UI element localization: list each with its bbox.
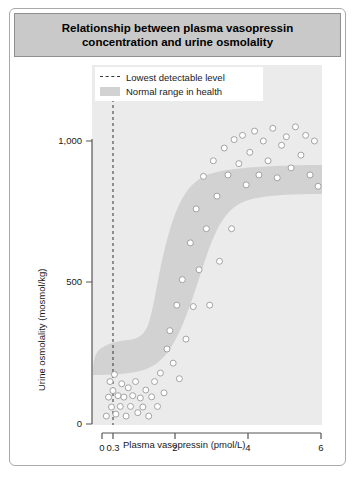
data-point <box>127 403 133 409</box>
data-point <box>115 393 121 399</box>
data-point <box>179 277 185 283</box>
data-point <box>164 346 170 352</box>
legend-item-normal-range: Normal range in health <box>100 84 258 98</box>
data-point <box>140 404 146 410</box>
data-point <box>137 395 143 401</box>
data-point <box>243 182 249 188</box>
x-tick-label-2: 2 <box>165 442 185 453</box>
data-point <box>292 124 298 130</box>
page-title: Relationship between plasma vasopressin … <box>15 21 340 49</box>
y-tick-label-500: 500 <box>40 276 82 287</box>
data-point <box>283 134 289 140</box>
data-point <box>247 149 253 155</box>
y-tick-label-1000: 1,000 <box>40 135 82 146</box>
data-point <box>200 173 206 179</box>
data-point <box>240 132 246 138</box>
data-point <box>121 394 127 400</box>
data-point <box>274 175 280 181</box>
data-point <box>307 172 313 178</box>
data-point <box>196 267 202 273</box>
data-point <box>149 394 155 400</box>
data-point <box>119 381 125 387</box>
data-point <box>221 145 227 151</box>
data-point <box>260 138 266 144</box>
data-point <box>130 393 136 399</box>
data-point <box>110 388 116 394</box>
chart-title-bar: Relationship between plasma vasopressin … <box>14 13 341 57</box>
data-point <box>125 385 131 391</box>
legend-label-lowest-detectable: Lowest detectable level <box>126 72 225 83</box>
data-point <box>152 379 158 385</box>
data-point <box>270 125 276 131</box>
data-point <box>229 226 235 232</box>
data-point <box>187 240 193 246</box>
data-point <box>146 413 152 419</box>
data-point <box>315 183 321 189</box>
data-point <box>117 403 123 409</box>
data-point <box>225 172 231 178</box>
data-point <box>303 132 309 138</box>
legend-label-normal-range: Normal range in health <box>126 86 222 97</box>
data-point <box>298 152 304 158</box>
data-point <box>111 371 117 377</box>
data-point <box>256 172 262 178</box>
data-point <box>203 226 209 232</box>
chart-legend: Lowest detectable level Normal range in … <box>95 67 263 101</box>
data-point <box>123 413 129 419</box>
data-point <box>288 165 294 171</box>
data-point <box>113 411 119 417</box>
data-point <box>170 360 176 366</box>
data-point <box>103 413 109 419</box>
data-point <box>106 394 112 400</box>
data-point <box>190 304 196 310</box>
dashed-line-icon <box>100 76 120 78</box>
data-point <box>231 137 237 143</box>
data-point <box>167 328 173 334</box>
x-tick-label-4: 4 <box>238 442 258 453</box>
data-point <box>214 193 220 199</box>
data-point <box>207 302 213 308</box>
data-point <box>133 379 139 385</box>
data-point <box>183 336 189 342</box>
data-point <box>279 142 285 148</box>
data-point <box>107 379 113 385</box>
x-tick-label-6: 6 <box>311 442 331 453</box>
figure-panel: Relationship between plasma vasopressin … <box>9 8 346 466</box>
plot-area: Urine osmolality (mosmol/kg) Plasma vaso… <box>10 61 345 465</box>
data-point <box>135 410 141 416</box>
data-point <box>176 376 182 382</box>
data-point <box>210 158 216 164</box>
y-tick-label-0: 0 <box>40 418 82 429</box>
data-point <box>217 258 223 264</box>
data-point <box>154 403 160 409</box>
data-point <box>143 387 149 393</box>
data-point <box>161 390 167 396</box>
data-point <box>193 206 199 212</box>
data-point <box>157 370 163 376</box>
data-point <box>265 158 271 164</box>
data-point <box>311 138 317 144</box>
band-swatch-icon <box>100 87 120 96</box>
data-point <box>108 404 114 410</box>
data-point <box>252 128 258 134</box>
scatter-plot-svg <box>10 61 345 465</box>
data-point <box>174 302 180 308</box>
data-point <box>236 161 242 167</box>
legend-item-lowest-detectable: Lowest detectable level <box>100 70 258 84</box>
x-tick-label-03: 0.3 <box>99 442 127 453</box>
